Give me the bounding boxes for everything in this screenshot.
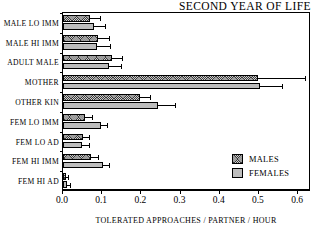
error-bar-cap — [68, 175, 69, 180]
category-row: ADULT MALE — [63, 53, 309, 73]
category-label: FEM HI IMM — [12, 157, 59, 166]
bar-males — [63, 75, 258, 82]
category-row: MOTHER — [63, 72, 309, 92]
error-bar-cap — [89, 143, 90, 148]
chart-legend: MALES FEMALES — [232, 152, 289, 180]
y-axis-tick — [60, 72, 63, 73]
y-axis-tick — [60, 53, 63, 54]
error-bar-females — [101, 125, 108, 126]
category-label: MALE LO IMM — [4, 18, 59, 27]
error-bar-males — [91, 157, 99, 158]
legend-swatch-males-icon — [232, 154, 243, 164]
category-row: OTHER KIN — [63, 92, 309, 112]
y-axis-tick — [60, 33, 63, 34]
y-axis-tick — [60, 151, 63, 152]
error-bar-cap — [110, 44, 111, 49]
bar-males — [63, 154, 91, 161]
bar-females — [63, 23, 94, 30]
x-axis-tick — [219, 190, 220, 194]
x-axis-tick-label: 0.0 — [56, 195, 68, 205]
error-bar-females — [94, 26, 106, 27]
bar-females — [63, 162, 103, 169]
error-bar-females — [82, 145, 89, 146]
x-axis-tick-label: 0.6 — [291, 195, 303, 205]
x-axis: 0.00.10.20.30.40.50.6 — [62, 190, 310, 191]
error-bar-males — [140, 97, 151, 98]
legend-swatch-females-icon — [232, 168, 243, 178]
error-bar-males — [85, 117, 94, 118]
chart-title: SECOND YEAR OF LIFE — [179, 0, 311, 12]
error-bar-cap — [109, 36, 110, 41]
bar-males — [63, 114, 85, 121]
bar-males — [63, 35, 98, 42]
category-label: FEM LO AD — [16, 137, 59, 146]
legend-item-females: FEMALES — [232, 166, 289, 180]
error-bar-males — [98, 38, 110, 39]
error-bar-males — [90, 18, 100, 19]
error-bar-cap — [105, 24, 106, 29]
legend-label-females: FEMALES — [249, 169, 289, 178]
error-bar-cap — [107, 123, 108, 128]
bar-males — [63, 15, 90, 22]
category-row: MALE HI IMM — [63, 33, 309, 53]
error-bar-cap — [92, 115, 93, 120]
error-bar-males — [258, 78, 306, 79]
x-axis-tick-label: 0.3 — [174, 195, 186, 205]
error-bar-cap — [150, 95, 151, 100]
error-bar-cap — [100, 16, 101, 21]
y-axis-tick — [60, 92, 63, 93]
x-axis-tick — [297, 190, 298, 194]
bar-males — [63, 55, 112, 62]
error-bar-females — [97, 46, 111, 47]
legend-item-males: MALES — [232, 152, 289, 166]
bar-females — [63, 63, 109, 70]
error-bar-cap — [109, 163, 110, 168]
bar-females — [63, 43, 97, 50]
y-axis-tick — [60, 171, 63, 172]
category-label: MALE HI IMM — [6, 38, 59, 47]
chart-root: SECOND YEAR OF LIFE MALE LO IMMMALE HI I… — [0, 0, 321, 232]
x-axis-title: TOLERATED APPROACHES / PARTNER / HOUR — [62, 216, 310, 225]
x-axis-tick — [62, 190, 63, 194]
error-bar-females — [109, 66, 122, 67]
category-row: FEM LO AD — [63, 132, 309, 152]
error-bar-cap — [89, 135, 90, 140]
category-label: FEM LO IMM — [10, 117, 59, 126]
category-row: MALE LO IMM — [63, 13, 309, 33]
y-axis-tick — [60, 132, 63, 133]
bar-females — [63, 83, 260, 90]
bar-males — [63, 134, 83, 141]
bar-females — [63, 102, 158, 109]
error-bar-cap — [70, 183, 71, 188]
bar-males — [63, 94, 140, 101]
error-bar-cap — [121, 64, 122, 69]
x-axis-tick-label: 0.5 — [252, 195, 264, 205]
x-axis-tick — [101, 190, 102, 194]
error-bar-males — [66, 177, 70, 178]
error-bar-males — [112, 58, 123, 59]
error-bar-cap — [122, 56, 123, 61]
category-label: MOTHER — [25, 78, 59, 87]
x-axis-tick-label: 0.1 — [95, 195, 107, 205]
legend-label-males: MALES — [249, 155, 279, 164]
error-bar-females — [158, 105, 176, 106]
error-bar-cap — [305, 76, 306, 81]
y-axis-tick — [60, 13, 63, 14]
error-bar-females — [260, 86, 283, 87]
category-label: FEM HI AD — [18, 177, 59, 186]
x-axis-tick-label: 0.4 — [213, 195, 225, 205]
error-bar-males — [83, 137, 90, 138]
category-label: ADULT MALE — [7, 58, 59, 67]
error-bar-females — [67, 185, 71, 186]
error-bar-cap — [282, 84, 283, 89]
x-axis-tick — [140, 190, 141, 194]
bar-females — [63, 122, 101, 129]
error-bar-cap — [175, 103, 176, 108]
x-axis-tick — [258, 190, 259, 194]
error-bar-females — [103, 165, 110, 166]
error-bar-cap — [98, 155, 99, 160]
x-axis-tick-label: 0.2 — [134, 195, 146, 205]
y-axis-tick — [60, 112, 63, 113]
x-axis-tick — [180, 190, 181, 194]
category-row: FEM LO IMM — [63, 112, 309, 132]
